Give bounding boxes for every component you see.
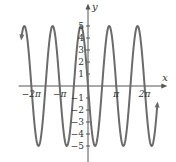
y-tick-label: −3 — [71, 117, 85, 127]
y-tick-label: −5 — [71, 141, 85, 151]
y-tick-label: 5 — [78, 21, 84, 31]
x-tick-label: π — [112, 89, 120, 99]
y-tick-label: −2 — [71, 105, 84, 115]
x-tick-label: −2π — [22, 89, 42, 99]
chart: xy−2π−ππ2π54321−1−2−3−4−5 — [0, 0, 176, 162]
x-axis-label: x — [162, 72, 168, 83]
curve-right-arrow-icon — [155, 102, 160, 108]
y-tick-label: 3 — [78, 45, 84, 55]
y-tick-label: 1 — [78, 69, 84, 79]
labels: xy−2π−ππ2π54321−1−2−3−4−5 — [22, 1, 169, 151]
y-axis-arrow-icon — [86, 4, 91, 10]
y-tick-label: −4 — [71, 129, 85, 139]
curve-left-arrow-icon — [19, 34, 24, 40]
x-tick-label: −π — [53, 89, 68, 99]
y-tick-label: 2 — [78, 57, 84, 67]
y-tick-label: 4 — [78, 33, 84, 43]
y-tick-label: −1 — [71, 93, 84, 103]
x-tick-label: 2π — [138, 89, 152, 99]
y-axis-label: y — [91, 1, 98, 12]
x-axis-arrow-icon — [161, 84, 167, 89]
